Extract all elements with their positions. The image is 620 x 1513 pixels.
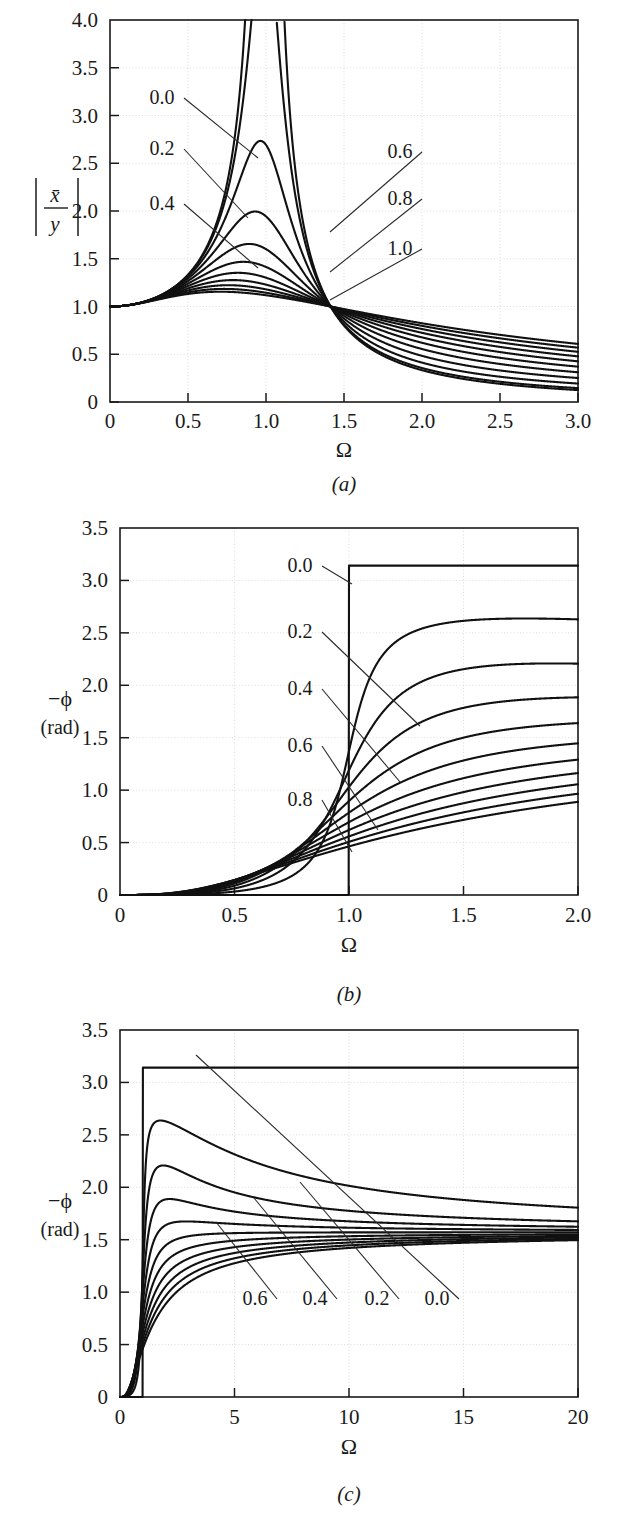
y-tick-label: 1.0 [72, 295, 98, 319]
x-tick-label: 5 [229, 1405, 240, 1429]
curve-label-0-6: 0.6 [288, 734, 313, 756]
x-tick-label: 2.5 [487, 409, 513, 433]
panel-b-y-axis-label: −ϕ [48, 686, 72, 711]
x-tick-label: 10 [339, 1405, 360, 1429]
y-tick-label: 2.0 [72, 199, 98, 223]
curve-zeta-0.5 [110, 262, 578, 367]
y-tick-label: 0.5 [72, 342, 98, 366]
y-tick-label: 3.0 [82, 568, 108, 592]
panel-c-y-tick-labels: 00.51.01.52.02.53.03.5 [82, 1018, 108, 1409]
curve-label-0-4: 0.4 [303, 1287, 328, 1309]
panel-c-y-axis-label: −ϕ [48, 1188, 72, 1213]
curve-label-leader [184, 98, 258, 158]
x-tick-label: 20 [568, 1405, 589, 1429]
y-tick-label: 2.0 [82, 673, 108, 697]
y-axis-denominator: y [48, 212, 60, 236]
curve-label-0-0: 0.0 [150, 86, 175, 108]
panel-c-y-axis-unit: (rad) [41, 1218, 80, 1241]
panel-b-y-tick-labels: 00.51.01.52.02.53.03.5 [82, 516, 108, 907]
curve-label-0-2: 0.2 [288, 620, 313, 642]
curve-label-0-4: 0.4 [288, 677, 313, 699]
y-tick-label: 1.0 [82, 1280, 108, 1304]
panel-a-caption: (a) [332, 472, 357, 496]
curve-label-0-2: 0.2 [150, 137, 175, 159]
y-tick-label: 2.0 [82, 1175, 108, 1199]
y-tick-label: 0 [98, 1385, 109, 1409]
curve-label-0-8: 0.8 [388, 187, 413, 209]
x-tick-label: 0.5 [221, 903, 247, 927]
curve-label-0-2: 0.2 [365, 1287, 390, 1309]
panel-c-x-tick-labels: 05101520 [115, 1405, 589, 1429]
y-tick-label: 0 [98, 883, 109, 907]
panel-c-gridlines [120, 1030, 578, 1397]
curve-zeta-0.5 [120, 1232, 578, 1397]
x-tick-label: 15 [453, 1405, 474, 1429]
y-tick-label: 3.0 [72, 104, 98, 128]
y-tick-label: 2.5 [82, 1123, 108, 1147]
curve-label-0-0: 0.0 [288, 554, 313, 576]
y-tick-label: 1.0 [82, 778, 108, 802]
panel-c-caption: (c) [337, 1482, 360, 1506]
y-tick-label: 3.5 [82, 1018, 108, 1042]
y-tick-label: 4.0 [72, 8, 98, 32]
curve-label-0-6: 0.6 [243, 1287, 268, 1309]
x-tick-label: 1.5 [331, 409, 357, 433]
x-tick-label: 2.0 [409, 409, 435, 433]
y-tick-label: 0 [88, 390, 99, 414]
panel-b-x-axis-title: Ω [341, 932, 357, 957]
x-tick-label: 2.0 [565, 903, 591, 927]
x-tick-label: 0 [105, 409, 116, 433]
y-tick-label: 0.5 [82, 831, 108, 855]
panel-a-x-axis-title: Ω [336, 437, 352, 462]
curve-label-leader [330, 199, 422, 272]
panel-b-y-axis-unit: (rad) [41, 716, 80, 739]
x-tick-label: 1.5 [450, 903, 476, 927]
y-tick-label: 0.5 [82, 1333, 108, 1357]
panel-b-curve-labels: 0.00.20.40.60.8 [288, 554, 421, 852]
x-tick-label: 0 [115, 903, 126, 927]
curve-label-leader [322, 632, 420, 726]
transmissibility-figure: 00.51.01.52.02.53.0 00.51.01.52.02.53.03… [0, 0, 620, 1513]
panel-a-gridlines [110, 20, 578, 402]
y-tick-label: 2.5 [72, 151, 98, 175]
y-tick-label: 3.5 [82, 516, 108, 540]
x-tick-label: 0.5 [175, 409, 201, 433]
y-tick-label: 3.5 [72, 56, 98, 80]
x-tick-label: 3.0 [565, 409, 591, 433]
curve-label-0-0: 0.0 [425, 1287, 450, 1309]
panel-b-x-tick-labels: 00.51.01.52.0 [115, 903, 591, 927]
x-tick-label: 1.0 [336, 903, 362, 927]
curve-label-0-6: 0.6 [388, 140, 413, 162]
y-tick-label: 2.5 [82, 621, 108, 645]
panel-b: 00.51.01.52.0 00.51.01.52.02.53.03.5 0.0… [0, 500, 620, 1012]
panel-c-x-axis-title: Ω [341, 1434, 357, 1459]
panel-b-svg: 00.51.01.52.0 00.51.01.52.02.53.03.5 0.0… [0, 500, 620, 1012]
curve-label-1-0: 1.0 [388, 237, 413, 259]
curve-label-leader [322, 566, 352, 584]
panel-b-caption: (b) [337, 982, 362, 1006]
x-tick-label: 0 [115, 1405, 126, 1429]
curve-label-0-4: 0.4 [150, 192, 175, 214]
panel-c-svg: 05101520 00.51.01.52.02.53.03.5 0.60.40.… [0, 1012, 620, 1513]
panel-a: 00.51.01.52.02.53.0 00.51.01.52.02.53.03… [0, 0, 620, 500]
panel-a-svg: 00.51.01.52.02.53.0 00.51.01.52.02.53.03… [0, 0, 620, 500]
y-axis-numerator: x̄ [49, 183, 60, 207]
y-tick-label: 3.0 [82, 1070, 108, 1094]
y-tick-label: 1.5 [82, 1228, 108, 1252]
panel-c: 05101520 00.51.01.52.02.53.03.5 0.60.40.… [0, 1012, 620, 1513]
x-tick-label: 1.0 [253, 409, 279, 433]
panel-a-x-tick-labels: 00.51.01.52.02.53.0 [105, 409, 591, 433]
panel-b-curves [120, 566, 578, 895]
y-tick-label: 1.5 [82, 726, 108, 750]
curve-label-0-8: 0.8 [288, 788, 313, 810]
y-tick-label: 1.5 [72, 247, 98, 271]
panel-a-y-tick-labels: 00.51.01.52.02.53.03.54.0 [72, 8, 98, 414]
